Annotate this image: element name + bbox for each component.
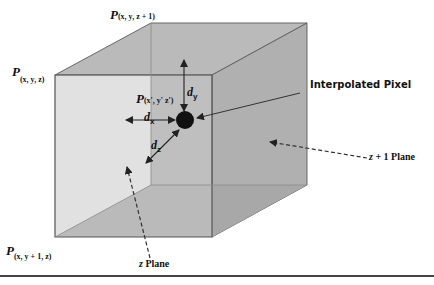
label-main: P xyxy=(6,243,14,258)
label-sub: (x, y + 1, z) xyxy=(14,252,51,261)
label-z-plane: z Plane xyxy=(139,258,169,269)
label-top-back-corner: P(x, y, z + 1) xyxy=(110,4,155,23)
label-dz: dz xyxy=(151,134,161,153)
label-main: P xyxy=(110,7,118,22)
label-dy: dy xyxy=(187,81,197,100)
label-sub: (x, y, z + 1) xyxy=(118,12,155,21)
label-z1-plane: z + 1 Plane xyxy=(369,151,415,162)
label-main: P xyxy=(12,64,20,79)
label-sub: x xyxy=(150,117,154,126)
label-dx: dx xyxy=(144,106,154,125)
label-sub: (x', y' z') xyxy=(144,96,174,105)
label-bottom-front-corner: P(x, y + 1, z) xyxy=(6,240,51,259)
interpolated-pixel-dot xyxy=(176,111,194,129)
plane-text: + 1 Plane xyxy=(373,151,415,162)
label-sub: z xyxy=(157,145,161,154)
bottom-rule xyxy=(0,275,434,277)
label-main: P xyxy=(136,91,144,106)
label-sub: (x, y, z) xyxy=(20,75,44,84)
plane-text: Plane xyxy=(143,258,169,269)
label-sub: y xyxy=(193,92,197,101)
label-interpolated-point: P(x', y' z') xyxy=(136,88,174,107)
label-top-front-corner: P(x, y, z) xyxy=(12,61,44,80)
cube-diagram xyxy=(0,0,434,285)
label-interpolated-pixel: Interpolated Pixel xyxy=(310,79,411,90)
